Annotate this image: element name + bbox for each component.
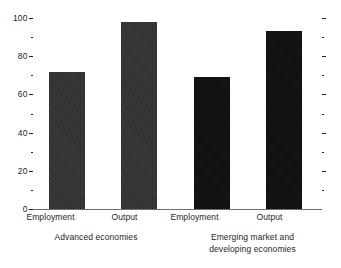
bar-emde-output[interactable] xyxy=(266,31,302,209)
y-tick-right-60 xyxy=(322,94,326,95)
group-label-advanced-economies: Advanced economies xyxy=(22,232,170,244)
y-tick-label-60: 60 xyxy=(18,90,28,99)
y-tick-label-80: 80 xyxy=(18,52,28,61)
plot-area xyxy=(33,18,320,209)
x-label-emde-output: Output xyxy=(237,212,302,223)
bar-advanced-employment[interactable] xyxy=(49,72,85,209)
y-tick-right-40 xyxy=(322,133,326,134)
group-label-emde-line2: developing economies xyxy=(175,244,330,256)
y-tick-right-10 xyxy=(322,190,324,191)
y-tick-right-90 xyxy=(322,37,324,38)
bar-emde-employment[interactable] xyxy=(194,77,230,209)
y-tick-label-40: 40 xyxy=(18,129,28,138)
x-axis-baseline xyxy=(33,209,322,210)
bar-advanced-output[interactable] xyxy=(121,22,157,209)
y-tick-right-80 xyxy=(322,56,326,57)
x-label-advanced-employment: Employment xyxy=(14,212,87,223)
y-axis-right xyxy=(322,0,341,268)
x-label-emde-employment: Employment xyxy=(158,212,231,223)
y-tick-right-20 xyxy=(322,171,326,172)
group-label-emde: Emerging market and developing economies xyxy=(175,232,330,255)
bar-chart: 100 80 60 40 20 xyxy=(0,0,341,268)
y-tick-right-30 xyxy=(322,152,324,153)
group-label-emde-line1: Emerging market and xyxy=(175,232,330,244)
y-axis: 100 80 60 40 20 xyxy=(0,0,33,268)
y-tick-right-70 xyxy=(322,75,324,76)
y-tick-right-100 xyxy=(322,18,326,19)
y-tick-label-20: 20 xyxy=(18,167,28,176)
x-label-advanced-output: Output xyxy=(92,212,157,223)
y-tick-right-50 xyxy=(322,114,324,115)
y-tick-label-100: 100 xyxy=(13,14,27,23)
